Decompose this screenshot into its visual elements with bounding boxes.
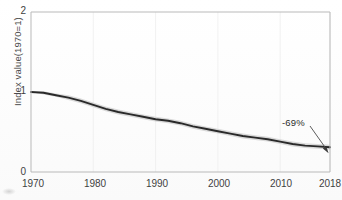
y-tick-2: 2: [8, 5, 26, 16]
x-tick-2000: 2000: [199, 178, 239, 189]
axis-frame: [31, 12, 330, 172]
y-tick-1: 1: [8, 85, 26, 96]
x-tick-1990: 1990: [137, 178, 177, 189]
x-tick-1980: 1980: [75, 178, 115, 189]
x-tick-2010: 2010: [261, 178, 301, 189]
scan-artifact: [2, 188, 16, 195]
decline-annotation: -69%: [282, 117, 305, 128]
x-tick-1970: 1970: [13, 178, 53, 189]
y-axis-label: Index value(1970=1): [12, 7, 23, 117]
x-tick-2018: 2018: [310, 178, 342, 189]
annotation-arrow: [310, 126, 329, 153]
gridlines: [93, 12, 330, 172]
chart-figure: Index value(1970=1) 0 1 2 1970 1980 1990…: [0, 0, 342, 200]
y-tick-0: 0: [8, 166, 26, 177]
line-chart-plot: [0, 0, 342, 200]
